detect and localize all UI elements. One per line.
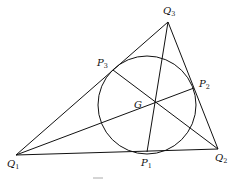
label-q2: Q2	[215, 152, 227, 165]
label-p3: P3	[96, 57, 108, 70]
label-q3: Q3	[163, 5, 175, 18]
triangle-q1q2q3	[16, 22, 218, 155]
incircle	[98, 56, 196, 154]
label-g: G	[134, 99, 142, 110]
label-p2: P2	[198, 78, 210, 91]
cevian-q1-p2	[16, 88, 194, 155]
geometry-diagram: Q3 Q1 Q2 P1 P2 P3 G	[0, 0, 232, 180]
cevian-q3-p1	[147, 22, 168, 152]
label-q1: Q1	[7, 158, 19, 171]
label-p1: P1	[140, 157, 152, 170]
